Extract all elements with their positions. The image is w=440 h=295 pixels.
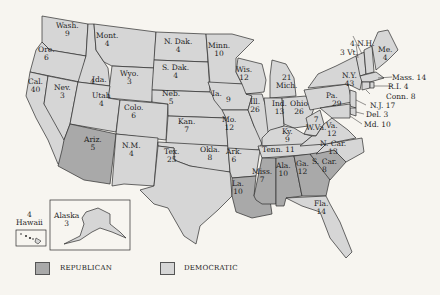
label-utah: Utah4	[92, 92, 111, 108]
label-scar: S. Car.8	[312, 158, 337, 174]
label-nm: N.M.4	[122, 142, 141, 158]
label-hawaii: 4Hawaii	[16, 211, 43, 227]
label-conn: Conn. 8	[386, 93, 415, 101]
label-ida-votes: 4	[90, 78, 95, 86]
label-ill: Ill.26	[250, 98, 260, 114]
label-tenn: Tenn. 11	[262, 146, 295, 154]
label-ncar: N. Car.13	[320, 140, 346, 156]
state-kan[interactable]	[166, 116, 228, 146]
legend-swatch-democratic	[160, 262, 175, 275]
label-ri: R.I. 4	[388, 83, 409, 91]
label-mont: Mont.4	[96, 32, 118, 48]
state-conn[interactable]	[362, 82, 370, 90]
label-me: Me.4	[378, 46, 393, 62]
label-pa-votes: 29	[332, 100, 342, 108]
label-ny: N.Y.43	[342, 72, 357, 88]
label-nev: Nev.3	[54, 84, 71, 100]
label-ohio: Ohio26	[290, 100, 308, 116]
label-wyo: Wyo.3	[120, 70, 139, 86]
label-ia: Ia.	[212, 90, 222, 98]
label-neb: Neb.5	[162, 90, 180, 106]
legend-swatch-republican	[35, 262, 50, 275]
label-wis: Wis.12	[236, 66, 252, 82]
label-wva: 7W.Va.	[306, 116, 326, 132]
label-kan: Kan.7	[178, 118, 195, 134]
label-mich: 21Mich.	[276, 74, 298, 90]
label-mass: Mass. 14	[392, 74, 426, 82]
state-del[interactable]	[350, 108, 356, 116]
label-la: La.10	[232, 180, 244, 196]
label-colo: Colo.6	[124, 104, 143, 120]
label-va: Va.12	[326, 122, 338, 138]
label-ariz: Ariz.5	[84, 136, 102, 152]
label-ala: Ala.10	[276, 162, 291, 178]
legend-label-republican: REPUBLICAN	[60, 264, 112, 272]
state-ri[interactable]	[370, 82, 374, 88]
label-okla: Okla.8	[200, 146, 220, 162]
label-nh: 4 N.H.	[350, 40, 375, 48]
label-ia-votes: 9	[226, 96, 231, 104]
label-ore: Ore.6	[38, 46, 55, 62]
label-nj: N.J. 17	[370, 102, 395, 110]
legend-label-democratic: DEMOCRATIC	[184, 264, 238, 272]
label-minn: Minn.10	[208, 42, 230, 58]
label-ndak: N. Dak.4	[164, 38, 192, 54]
label-tex: Tex.25	[164, 148, 179, 164]
label-alaska: Alaska3	[54, 212, 79, 228]
label-ark: Ark.6	[226, 148, 242, 164]
label-ga: Ga.12	[296, 160, 309, 176]
label-mo: Mo.12	[222, 116, 236, 132]
label-sdak: S. Dak.4	[162, 64, 189, 80]
label-md: Md. 10	[364, 121, 391, 129]
state-ariz[interactable]	[58, 124, 116, 184]
label-cal: Cal.40	[28, 78, 43, 94]
label-ky: Ky.9	[282, 128, 293, 144]
label-miss: Miss.7	[252, 168, 272, 184]
label-vt: 3 Vt.	[340, 49, 358, 57]
label-fla: Fla.14	[314, 200, 328, 216]
label-del: Del. 3	[366, 111, 388, 119]
state-nj[interactable]	[350, 90, 356, 108]
label-ind: Ind.13	[272, 100, 287, 116]
label-wash: Wash.9	[56, 22, 79, 38]
